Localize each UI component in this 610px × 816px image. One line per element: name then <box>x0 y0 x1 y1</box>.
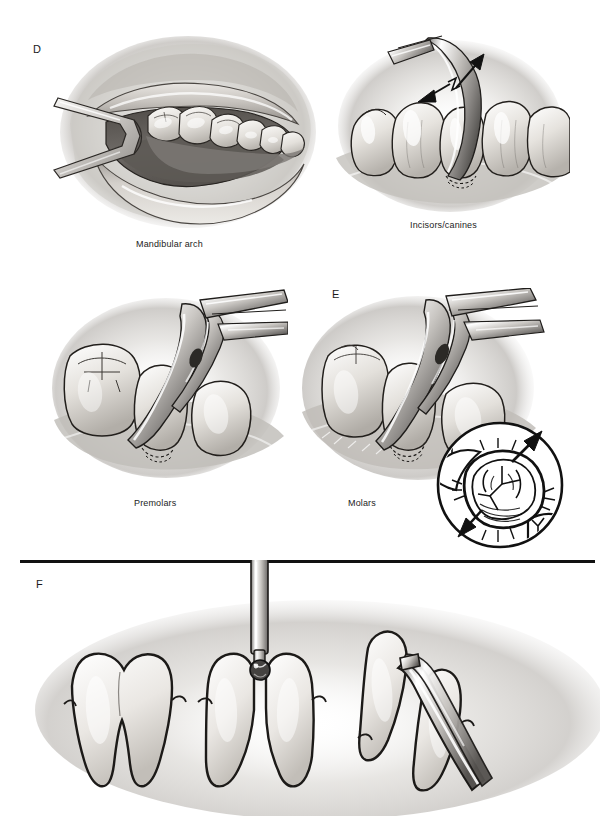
illustration-premolars <box>48 288 288 484</box>
caption-premolars: Premolars <box>134 498 176 508</box>
panel-letter-d: D <box>33 43 41 55</box>
caption-molars: Molars <box>348 498 376 508</box>
illustration-incisors-canines <box>330 30 570 220</box>
illustration-mandibular-arch <box>48 28 328 243</box>
caption-mandibular-arch: Mandibular arch <box>136 239 203 249</box>
bur-handpiece-icon <box>250 560 270 680</box>
top-cropped-caption <box>0 0 610 8</box>
illustration-occlusal-inset <box>424 418 576 552</box>
illustration-tooth-sectioning <box>20 560 600 816</box>
figure-page: D <box>0 0 610 816</box>
adjacent-molar <box>64 344 140 436</box>
caption-incisors-canines: Incisors/canines <box>410 220 477 230</box>
